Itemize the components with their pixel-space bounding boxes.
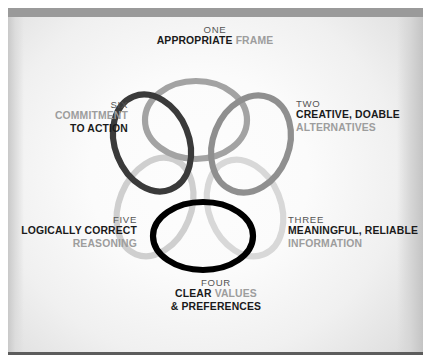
top-band (8, 8, 423, 17)
label-three: THREE MEANINGFUL, RELIABLE INFORMATION (288, 214, 430, 250)
label-six-line-1: COMMITMENT (6, 110, 128, 122)
label-four-seg-1: CLEAR (175, 288, 215, 299)
label-five-line-1: LOGICALLY CORRECT (2, 225, 137, 237)
label-two-line-1: CREATIVE, DOABLE (296, 109, 428, 121)
label-six-line-2: TO ACTION (6, 123, 128, 135)
label-one-seg-1: APPROPRIATE (157, 35, 236, 46)
label-four-line-2: & PREFERENCES (130, 301, 302, 313)
label-two: TWO CREATIVE, DOABLE ALTERNATIVES (296, 98, 428, 134)
label-two-number: TWO (296, 98, 428, 109)
label-three-number: THREE (288, 214, 430, 225)
label-one-seg-2: FRAME (236, 35, 274, 46)
label-one-line-1: APPROPRIATE FRAME (125, 35, 305, 47)
label-three-line-1: MEANINGFUL, RELIABLE (288, 225, 430, 237)
label-one: ONE APPROPRIATE FRAME (125, 24, 305, 48)
ring-four (153, 202, 253, 270)
ring-one (145, 81, 247, 159)
label-three-line-2: INFORMATION (288, 238, 430, 250)
label-six-number: SIX (6, 99, 128, 110)
diagram-page: ONE APPROPRIATE FRAME TWO CREATIVE, DOAB… (0, 0, 431, 363)
label-four-seg-2: VALUES (215, 288, 257, 299)
ring-two (197, 83, 305, 204)
bottom-rule (8, 352, 423, 355)
label-five: FIVE LOGICALLY CORRECT REASONING (2, 214, 137, 250)
label-five-number: FIVE (2, 214, 137, 225)
label-four: FOUR CLEAR VALUES & PREFERENCES (130, 277, 302, 313)
label-two-line-2: ALTERNATIVES (296, 122, 428, 134)
label-five-line-2: REASONING (2, 238, 137, 250)
label-six: SIX COMMITMENT TO ACTION (6, 99, 128, 135)
label-four-line-1: CLEAR VALUES (130, 288, 302, 300)
label-one-number: ONE (125, 24, 305, 35)
label-four-number: FOUR (130, 277, 302, 288)
diagram-stage: ONE APPROPRIATE FRAME TWO CREATIVE, DOAB… (0, 0, 431, 363)
